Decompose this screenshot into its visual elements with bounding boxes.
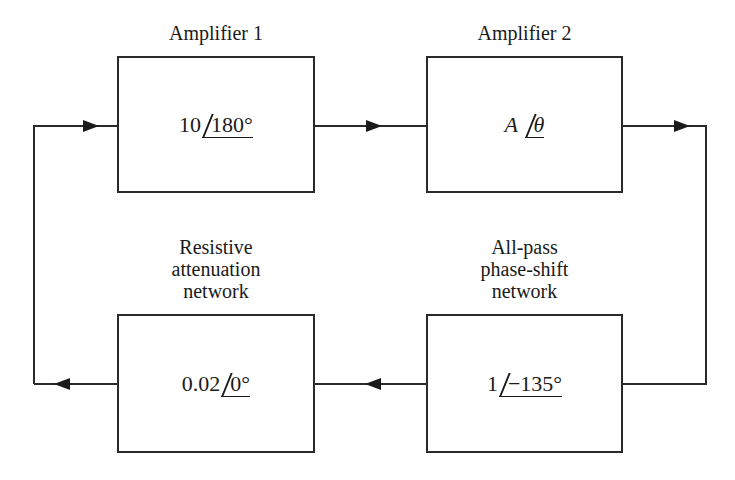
amplifier-2-block: A θ <box>426 56 623 193</box>
arrow-right-icon <box>366 120 382 132</box>
phase-shift-title: All-pass phase-shift network <box>427 236 622 302</box>
attenuator-title-line: network <box>118 280 314 302</box>
phase-shift-title-line: phase-shift <box>427 258 622 280</box>
arrow-left-icon <box>54 378 70 390</box>
attenuator-angle: 0° <box>221 373 250 397</box>
amplifier-2-magnitude: A <box>505 112 518 137</box>
phase-shift-block: 1−135° <box>426 314 623 453</box>
amplifier-2-angle: θ <box>525 114 545 138</box>
amplifier-1-angle: 180° <box>202 114 253 138</box>
attenuator-title: Resistive attenuation network <box>118 236 314 302</box>
amplifier-1-title: Amplifier 1 <box>118 22 314 44</box>
amplifier-1-block: 10180° <box>117 56 315 193</box>
attenuator-gain: 0.020° <box>119 371 313 397</box>
amplifier-1-gain: 10180° <box>119 112 313 138</box>
phase-shift-gain: 1−135° <box>428 371 621 397</box>
amplifier-1-magnitude: 10 <box>179 112 201 137</box>
attenuator-title-line: Resistive <box>118 236 314 258</box>
phase-shift-title-line: All-pass <box>427 236 622 258</box>
phase-shift-title-line: network <box>427 280 622 302</box>
amplifier-2-title: Amplifier 2 <box>427 22 622 44</box>
feedback-wire-left <box>34 126 118 384</box>
wire-amp2-to-phase-shift <box>622 126 706 384</box>
signal-wires <box>0 0 735 480</box>
attenuator-block: 0.020° <box>117 314 315 453</box>
attenuator-title-line: attenuation <box>118 258 314 280</box>
phase-shift-magnitude: 1 <box>487 371 498 396</box>
arrow-left-icon <box>365 378 381 390</box>
arrow-right-icon <box>674 120 690 132</box>
amplifier-2-gain: A θ <box>428 112 621 138</box>
attenuator-magnitude: 0.02 <box>182 371 221 396</box>
arrow-right-icon <box>83 120 99 132</box>
phase-shift-angle: −135° <box>499 373 562 397</box>
